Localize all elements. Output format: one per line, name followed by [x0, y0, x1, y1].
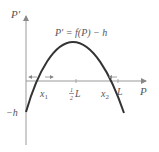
x-axis-label: P [139, 85, 147, 97]
curve [26, 42, 124, 113]
half-L-numerator: 1 [70, 87, 73, 93]
plot-canvas: P′ P P′ = f(P) − h −h x1 1 2 L x2 L [0, 0, 159, 152]
half-L-denominator: 2 [70, 95, 73, 101]
phase-diagram: P′ P P′ = f(P) − h −h x1 1 2 L x2 L [0, 0, 159, 152]
half-L-variable: L [74, 88, 81, 99]
y-intercept-label: −h [6, 107, 18, 118]
equation-label: P′ = f(P) − h [54, 27, 107, 39]
x1-label: x1 [39, 88, 48, 101]
y-axis-label: P′ [10, 8, 21, 20]
L-label: L [116, 86, 123, 97]
x2-label: x2 [100, 88, 109, 101]
